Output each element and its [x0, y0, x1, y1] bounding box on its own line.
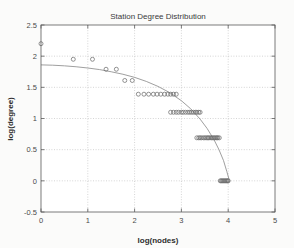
x-tick-label: 5: [273, 216, 277, 225]
x-tick-label: 3: [179, 216, 183, 225]
chart-title: Station Degree Distribution: [110, 12, 206, 21]
x-tick-label: 4: [226, 216, 230, 225]
x-tick-label: 2: [133, 216, 137, 225]
x-tick-label: 1: [86, 216, 90, 225]
y-tick-label: 2: [33, 52, 37, 61]
chart-canvas: 012345-0.500.511.522.5 Station Degree Di…: [0, 0, 294, 248]
y-tick-label: 0.5: [27, 145, 37, 154]
y-tick-label: 1: [33, 114, 37, 123]
plot-background: [0, 0, 294, 248]
figure-container: 012345-0.500.511.522.5 Station Degree Di…: [0, 0, 294, 248]
x-tick-label: 0: [39, 216, 43, 225]
y-tick-label: -0.5: [24, 208, 37, 217]
x-axis-label: log(nodes): [138, 236, 179, 245]
y-tick-label: 2.5: [27, 21, 37, 30]
y-tick-label: 0: [33, 177, 37, 186]
y-axis-label: log(degree): [6, 97, 15, 141]
y-tick-label: 1.5: [27, 83, 37, 92]
